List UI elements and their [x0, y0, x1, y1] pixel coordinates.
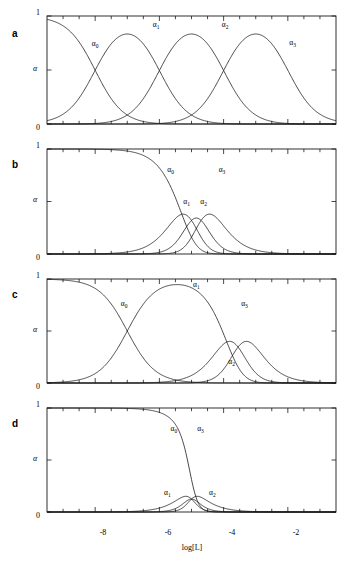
curve-label-b-1: α1	[183, 197, 190, 207]
panel-a: a 1 α 0 α0α1α2α3	[0, 12, 353, 134]
panel-a-ytick-top: 1	[33, 8, 43, 17]
curve-label-a-1: α1	[153, 20, 160, 30]
panel-a-ytick-bottom: 0	[33, 123, 43, 132]
panel-b-plot: α0α1α2α3	[0, 145, 353, 264]
curve-label-c-2: α3	[241, 299, 248, 309]
curve-label-b-0: α0	[167, 165, 174, 175]
panel-b-ylabel: α	[33, 195, 37, 204]
panel-b: b 1 α 0 α0α1α2α3	[0, 145, 353, 264]
curve-label-d-3: α2	[209, 488, 216, 498]
panel-d-ytick-bottom: 0	[33, 511, 43, 520]
panel-d: d 1 α 0 α0α3α1α2	[0, 404, 353, 522]
curve-label-b-2: α2	[200, 197, 207, 207]
panel-d-letter: d	[12, 418, 18, 429]
panel-b-ytick-bottom: 0	[33, 253, 43, 262]
panel-c: c 1 α 0 α0α1α3α2	[0, 275, 353, 393]
panel-c-ytick-bottom: 0	[33, 382, 43, 391]
panel-a-ylabel: α	[33, 64, 37, 73]
panel-c-ytick-top: 1	[33, 271, 43, 280]
panel-b-letter: b	[12, 159, 18, 170]
curve-label-d-1: α3	[197, 424, 204, 434]
curve-label-a-0: α0	[92, 39, 99, 49]
panel-c-plot: α0α1α3α2	[0, 275, 353, 393]
panel-b-ytick-top: 1	[33, 141, 43, 150]
speciation-figure: a 1 α 0 α0α1α2α3 b 1 α 0 α0α1α2α3 c 1 α …	[0, 0, 353, 571]
curve-label-c-0: α0	[121, 299, 128, 309]
panel-c-ylabel: α	[33, 325, 37, 334]
curve-label-d-2: α1	[164, 488, 171, 498]
curve-label-a-3: α3	[289, 38, 296, 48]
curve-label-a-2: α2	[222, 20, 229, 30]
panel-a-plot: α0α1α2α3	[0, 12, 353, 134]
xtick-label-3: -2	[288, 528, 304, 537]
curve-label-c-1: α1	[193, 280, 200, 290]
xtick-label-2: -4	[224, 528, 240, 537]
panel-d-plot: α0α3α1α2	[0, 404, 353, 522]
curve-label-b-3: α3	[219, 165, 226, 175]
xtick-label-1: -6	[160, 528, 176, 537]
panel-a-letter: a	[12, 28, 18, 39]
panel-c-letter: c	[12, 289, 18, 300]
xaxis-title: log[L]	[162, 543, 222, 552]
xtick-label-0: -8	[95, 528, 111, 537]
panel-d-ylabel: α	[33, 454, 37, 463]
panel-d-ytick-top: 1	[33, 400, 43, 409]
